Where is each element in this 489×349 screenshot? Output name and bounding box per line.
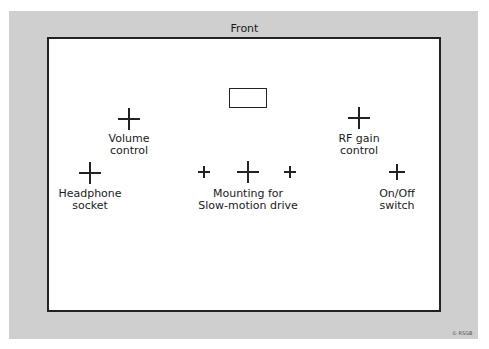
- mounting-label: Mounting for Slow-motion drive: [178, 188, 318, 212]
- rf-gain-control-label: RF gain control: [326, 133, 392, 157]
- volume-control-hole-icon: [118, 108, 140, 130]
- slow-motion-drive-hole-icon: [237, 161, 259, 183]
- front-label: Front: [0, 23, 489, 35]
- copyright-label: © RSGB: [452, 330, 473, 336]
- onoff-switch-label: On/Off switch: [368, 188, 426, 212]
- mounting-screw-left-icon: [198, 166, 210, 178]
- headphone-socket-label: Headphone socket: [50, 188, 130, 212]
- headphone-socket-hole-icon: [79, 162, 101, 184]
- volume-control-label: Volume control: [95, 133, 163, 157]
- dial-window: [229, 88, 267, 108]
- mounting-screw-right-icon: [284, 166, 296, 178]
- onoff-switch-hole-icon: [389, 164, 405, 180]
- rf-gain-control-hole-icon: [348, 107, 370, 129]
- caption: [0, 341, 489, 349]
